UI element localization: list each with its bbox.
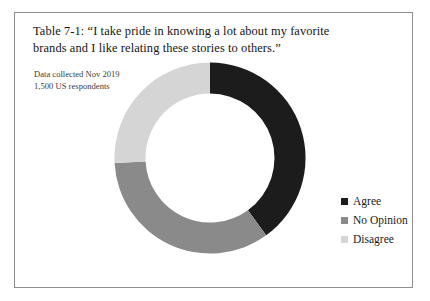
donut-slice-no-opinion[interactable] — [115, 161, 267, 253]
legend-item-agree[interactable]: Agree — [341, 192, 421, 211]
figure-caption: Table 7-1: “I take pride in knowing a lo… — [33, 23, 343, 57]
legend-label-disagree: Disagree — [353, 233, 394, 246]
donut-slice-disagree[interactable] — [114, 62, 210, 163]
donut-slice-group — [114, 62, 305, 253]
chart-legend: Agree No Opinion Disagree — [341, 192, 421, 249]
legend-label-agree: Agree — [353, 195, 381, 208]
donut-slice-agree[interactable] — [210, 62, 306, 235]
figure-frame: Table 7-1: “I take pride in knowing a lo… — [14, 12, 413, 288]
legend-item-no-opinion[interactable]: No Opinion — [341, 211, 421, 230]
legend-item-disagree[interactable]: Disagree — [341, 230, 421, 249]
legend-swatch-no-opinion — [341, 217, 348, 224]
legend-swatch-agree — [341, 198, 348, 205]
donut-chart — [113, 61, 307, 255]
donut-chart-svg — [113, 61, 307, 255]
legend-label-no-opinion: No Opinion — [353, 214, 408, 227]
legend-swatch-disagree — [341, 236, 348, 243]
